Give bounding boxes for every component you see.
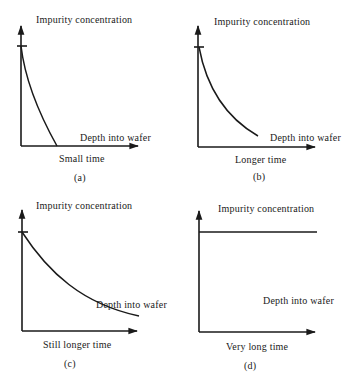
panel-c-x-axis-label: Depth into wafer — [96, 300, 167, 310]
panel-b — [194, 26, 315, 147]
panel-b-x-axis-label: Depth into wafer — [270, 133, 341, 143]
panel-d-tag: (d) — [244, 361, 256, 371]
panel-b-caption: Longer time — [235, 155, 286, 165]
panel-c-y-axis-label: Impurity concentration — [36, 201, 132, 211]
panel-a-y-axis-label: Impurity concentration — [36, 15, 132, 25]
panel-c — [18, 210, 139, 331]
panel-a — [17, 26, 138, 146]
panel-d — [199, 211, 317, 332]
panel-d-caption: Very long time — [226, 342, 288, 352]
panel-c-caption: Still longer time — [43, 340, 111, 350]
panel-b-y-axis-label: Impurity concentration — [214, 17, 310, 27]
panel-a-caption: Small time — [59, 154, 105, 164]
panel-b-concentration-curve — [199, 47, 258, 136]
panel-d-x-axis-label: Depth into wafer — [263, 296, 334, 306]
panel-b-tag: (b) — [253, 172, 265, 182]
panel-a-x-axis-label: Depth into wafer — [80, 133, 151, 143]
panel-d-y-axis-label: Impurity concentration — [218, 204, 314, 214]
panel-c-tag: (c) — [64, 359, 76, 369]
panel-a-concentration-curve — [21, 46, 57, 146]
panel-a-tag: (a) — [74, 173, 86, 183]
diffusion-profiles-diagram — [0, 0, 350, 382]
